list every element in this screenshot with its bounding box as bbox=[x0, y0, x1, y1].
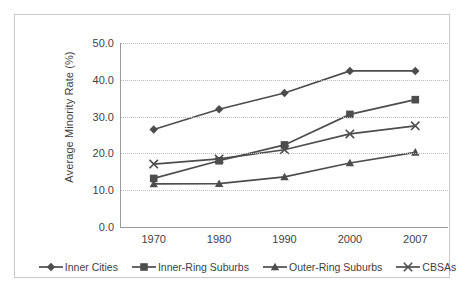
y-tick-label: 40.0 bbox=[93, 74, 114, 86]
legend-label: Inner-Ring Suburbs bbox=[158, 262, 249, 273]
x-tick-label: 1980 bbox=[207, 233, 231, 245]
legend-entry-inner-cities[interactable]: Inner Cities bbox=[38, 261, 118, 273]
x-tick-label: 1990 bbox=[272, 233, 296, 245]
diamond-marker-icon bbox=[38, 261, 64, 273]
series-inner-cities bbox=[150, 67, 420, 134]
legend-entry-outer-ring-suburbs[interactable]: Outer-Ring Suburbs bbox=[262, 261, 382, 273]
data-point-marker bbox=[411, 148, 419, 156]
x-tick-label: 1970 bbox=[141, 233, 165, 245]
legend-entry-inner-ring-suburbs[interactable]: Inner-Ring Suburbs bbox=[131, 261, 249, 273]
x-marker-icon bbox=[395, 261, 421, 273]
data-point-marker bbox=[150, 125, 158, 133]
chart-figure: Average Minority Rate (%) 0.010.020.030.… bbox=[0, 0, 469, 293]
legend-label: Outer-Ring Suburbs bbox=[289, 262, 382, 273]
x-tick-label: 2000 bbox=[338, 233, 362, 245]
data-point-marker bbox=[215, 105, 223, 113]
series-inner-ring-suburbs bbox=[150, 96, 419, 182]
data-point-marker bbox=[412, 96, 420, 104]
data-point-marker bbox=[280, 89, 288, 97]
data-point-marker bbox=[346, 67, 354, 75]
y-tick-label: 50.0 bbox=[93, 37, 114, 49]
y-gridline bbox=[121, 80, 448, 81]
data-point-marker bbox=[411, 67, 419, 75]
y-tick-label: 10.0 bbox=[93, 184, 114, 196]
series-line bbox=[154, 100, 416, 179]
legend-label: CBSAs bbox=[422, 262, 456, 273]
figure-frame: Average Minority Rate (%) 0.010.020.030.… bbox=[14, 14, 450, 278]
square-marker-icon bbox=[131, 261, 157, 273]
chart-legend: Inner CitiesInner-Ring SuburbsOuter-Ring… bbox=[29, 261, 465, 273]
triangle-marker-icon bbox=[262, 261, 288, 273]
legend-entry-cbsas[interactable]: CBSAs bbox=[395, 261, 456, 273]
y-gridline bbox=[121, 190, 448, 191]
x-tick-label: 2007 bbox=[403, 233, 427, 245]
y-gridline bbox=[121, 43, 448, 44]
y-gridline bbox=[121, 117, 448, 118]
y-gridline bbox=[121, 153, 448, 154]
y-tick-label: 0.0 bbox=[99, 221, 114, 233]
y-axis-title: Average Minority Rate (%) bbox=[63, 17, 75, 217]
plot-area: 0.010.020.030.040.050.019701980199020002… bbox=[120, 43, 448, 228]
y-tick-label: 30.0 bbox=[93, 111, 114, 123]
y-tick-label: 20.0 bbox=[93, 147, 114, 159]
legend-label: Inner Cities bbox=[65, 262, 118, 273]
series-lines-layer bbox=[121, 43, 448, 227]
